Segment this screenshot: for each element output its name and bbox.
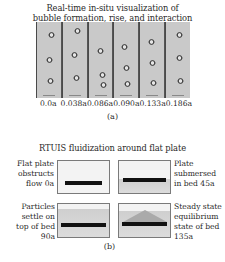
- bubble-frame-4: [113, 22, 138, 98]
- bubble: [176, 32, 183, 38]
- frame-label-5: 0.133a: [139, 99, 165, 108]
- bubble-frame-3: [88, 22, 113, 98]
- scale-bar: [120, 95, 132, 96]
- bubble: [176, 55, 183, 61]
- flat-plate: [122, 222, 167, 226]
- bubble: [48, 32, 55, 38]
- bubble: [177, 78, 184, 84]
- image-4-description: Steady state equilibrium state of bed 13…: [174, 202, 225, 242]
- bubble: [148, 39, 155, 45]
- frame-label-3: 0.086a: [87, 99, 113, 108]
- scale-bar: [69, 95, 81, 96]
- bubble: [124, 81, 131, 87]
- bubble: [46, 57, 53, 63]
- panel-b-title: RTUIS fluidization around flat plate: [0, 143, 225, 153]
- image-3-description: Particles settle on top of bed 90a: [0, 202, 55, 242]
- image-2-description: Plate submersed in bed 45a: [174, 159, 224, 189]
- bubble: [71, 52, 78, 58]
- scale-bar: [95, 95, 107, 96]
- panel-b-caption: (b): [0, 242, 222, 251]
- bubble: [73, 75, 80, 81]
- bubble: [47, 78, 54, 84]
- bubble-frame-2: [62, 22, 87, 98]
- plate-image-45a: [118, 160, 171, 194]
- bubble: [121, 44, 128, 50]
- particle-mound: [123, 210, 167, 222]
- bubble: [99, 72, 106, 78]
- bubble: [123, 65, 130, 71]
- flat-plate: [123, 178, 166, 182]
- plate-image-0a: [57, 160, 110, 194]
- frame-label-2: 0.038a: [61, 99, 87, 108]
- frame-time-labels: 0.0a 0.038a 0.086a 0.090a 0.133a 0.186a: [36, 99, 192, 108]
- image-1-description: Flat plate obstructs flow 0a: [2, 159, 54, 189]
- plate-image-135a: [118, 203, 171, 238]
- frame-label-4: 0.090a: [113, 99, 139, 108]
- bubble-frame-1: [36, 22, 61, 98]
- plate-image-90a: [57, 203, 110, 238]
- flat-plate: [61, 223, 106, 227]
- bubble: [97, 48, 104, 54]
- bubble-frame-5: [139, 22, 164, 98]
- bubble-frame-6: [165, 22, 190, 98]
- frame-label-6: 0.186a: [166, 99, 192, 108]
- scale-bar: [172, 95, 184, 96]
- bubble-frame-strip: [36, 22, 190, 98]
- bubble: [149, 60, 156, 66]
- bubble: [74, 28, 81, 34]
- panel-a-title-line1: Real-time in-situ visualization of: [0, 3, 225, 13]
- scale-bar: [43, 95, 55, 96]
- bubble: [150, 80, 157, 86]
- panel-a-caption: (a): [0, 112, 225, 121]
- frame-label-1: 0.0a: [36, 99, 61, 108]
- bubble: [100, 82, 107, 88]
- scale-bar: [146, 95, 158, 96]
- flat-plate: [65, 181, 102, 185]
